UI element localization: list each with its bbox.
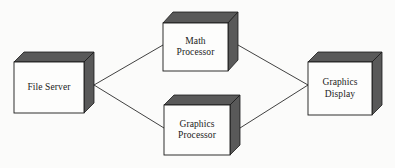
connector-graphics-processor-to-graphics-display (240, 85, 308, 128)
diagram-canvas: File ServerMathProcessorGraphicsProcesso… (0, 0, 395, 168)
node-graphics-processor[interactable] (164, 95, 240, 155)
node-file-server[interactable] (14, 52, 94, 113)
node-graphics-processor-side-face (230, 95, 240, 155)
node-graphics-display-top-face (308, 52, 382, 62)
node-file-server-side-face (84, 52, 94, 113)
node-math-processor[interactable] (163, 12, 238, 71)
node-math-processor-front-face[interactable] (163, 23, 228, 71)
node-graphics-display[interactable] (308, 52, 382, 115)
node-graphics-display-side-face (372, 52, 382, 115)
connector-file-server-to-graphics-processor (94, 85, 164, 128)
node-math-processor-side-face (228, 12, 238, 71)
connector-math-processor-to-graphics-display (238, 45, 308, 85)
node-graphics-processor-front-face[interactable] (164, 105, 230, 155)
nodes-layer (14, 12, 382, 155)
node-math-processor-top-face (163, 12, 238, 23)
node-graphics-display-front-face[interactable] (308, 62, 372, 115)
node-file-server-top-face (14, 52, 94, 62)
connector-file-server-to-math-processor (94, 45, 163, 85)
node-graphics-processor-top-face (164, 95, 240, 105)
node-file-server-front-face[interactable] (14, 62, 84, 113)
diagram-svg (0, 0, 395, 168)
